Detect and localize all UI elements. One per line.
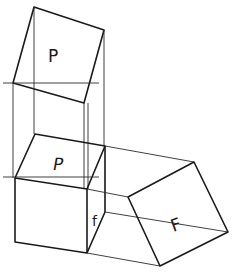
label-cube-side-f: f [92, 213, 98, 229]
cube [15, 134, 105, 253]
label-upper-p: P [48, 46, 58, 66]
projection-diagram: P P f F [0, 0, 233, 272]
upper-square-p [13, 7, 104, 103]
label-cube-top-p: P [51, 154, 65, 174]
right-square-f [128, 162, 228, 266]
horizontal-projectors [87, 146, 228, 266]
